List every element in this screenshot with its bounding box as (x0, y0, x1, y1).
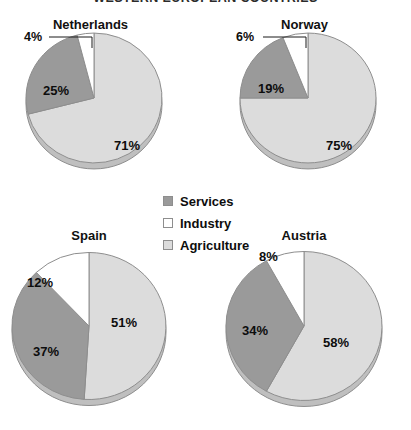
pie-label-spain-industry: 12% (27, 276, 53, 289)
pie-label-netherlands-services: 25% (43, 84, 69, 97)
pie-panel-netherlands: Netherlands 4% 25% 71% (18, 14, 163, 184)
legend-item-services: Services (163, 190, 283, 212)
legend-swatch-services-icon (163, 196, 173, 206)
pie-label-norway-agriculture: 75% (326, 139, 352, 152)
pie-label-netherlands-industry: 4% (24, 31, 42, 44)
legend-label-industry: Industry (180, 217, 231, 230)
legend-label-agriculture: Agriculture (180, 239, 249, 252)
chart-legend: Services Industry Agriculture (163, 190, 283, 256)
pie-chart-spain (8, 244, 170, 416)
leader-line-norway (262, 36, 314, 50)
pie-panel-spain: Spain 12% 37% 51% (8, 228, 170, 408)
leader-line-netherlands (48, 36, 100, 50)
pie-label-austria-services: 34% (242, 324, 268, 337)
pie-title-spain: Spain (8, 228, 170, 243)
pie-label-spain-agriculture: 51% (111, 316, 137, 329)
pie-label-norway-industry: 6% (236, 31, 254, 44)
pie-label-spain-services: 37% (33, 345, 59, 358)
pie-label-netherlands-agriculture: 71% (114, 139, 140, 152)
legend-item-industry: Industry (163, 212, 283, 234)
pie-label-norway-services: 19% (258, 82, 284, 95)
page-title: WESTERN EUROPEAN COUNTRIES (0, 0, 411, 5)
legend-label-services: Services (180, 195, 234, 208)
pie-panel-norway: Norway 6% 19% 75% (232, 14, 377, 184)
legend-item-agriculture: Agriculture (163, 234, 283, 256)
legend-swatch-agriculture-icon (163, 240, 173, 250)
pie-label-austria-agriculture: 58% (323, 336, 349, 349)
legend-swatch-industry-icon (163, 218, 173, 228)
